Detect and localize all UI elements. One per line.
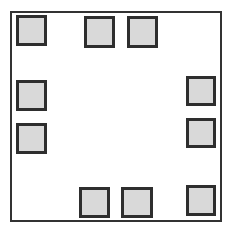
pad-top-1 [84, 16, 115, 48]
pad-bottom-right [186, 185, 216, 216]
pad-right-2 [186, 118, 216, 148]
pad-top-left [16, 15, 47, 46]
pad-left-2 [16, 123, 47, 154]
pad-left-1 [16, 80, 47, 111]
pad-right-1 [186, 76, 216, 106]
pad-bottom-1 [79, 187, 110, 218]
pad-bottom-2 [121, 187, 153, 218]
pad-top-2 [127, 16, 158, 48]
